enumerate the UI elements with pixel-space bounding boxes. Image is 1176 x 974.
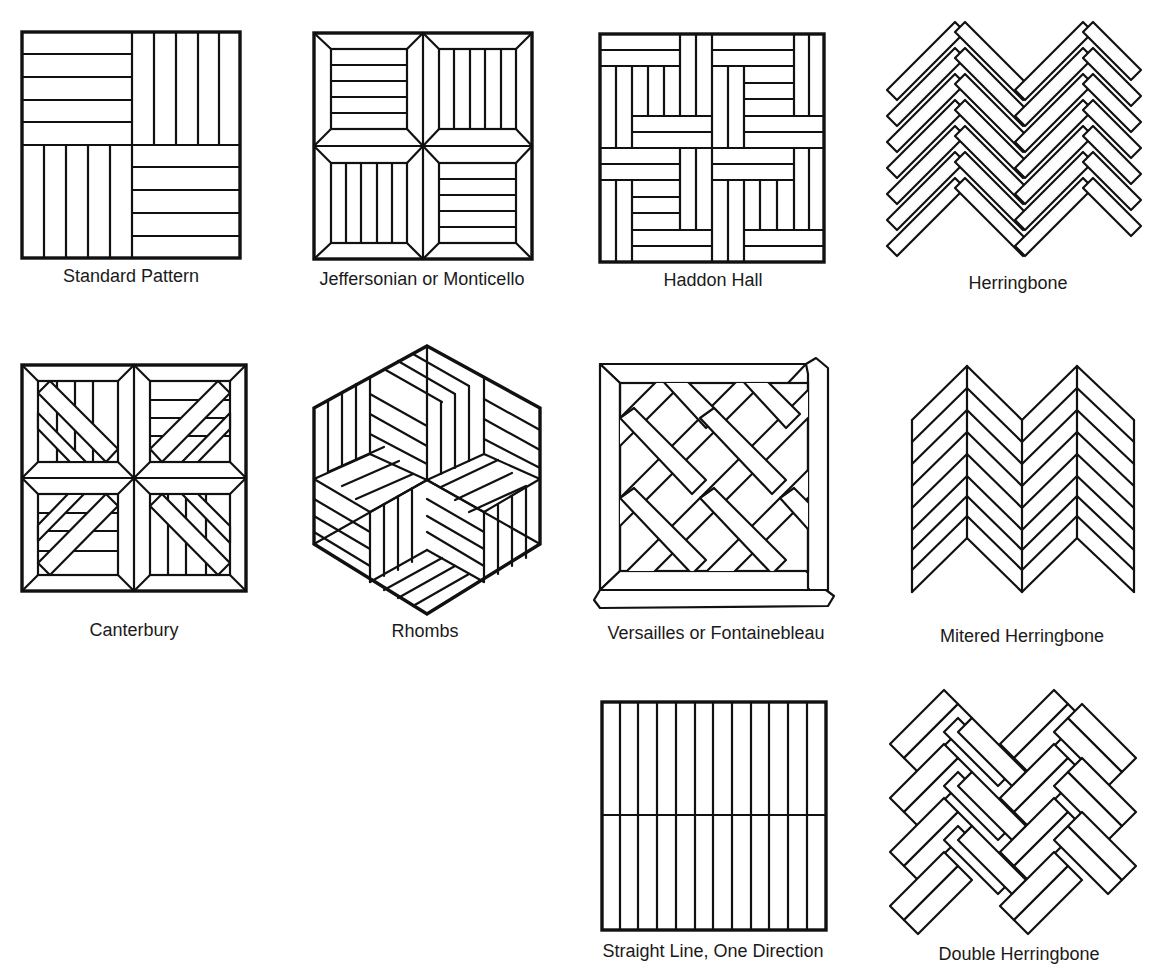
standard-pattern-icon (20, 30, 242, 260)
canterbury-pattern-diagram (20, 363, 248, 593)
straight-line-pattern-diagram (600, 700, 828, 932)
caption-versailles: Versailles or Fontainebleau (607, 623, 824, 644)
versailles-pattern-diagram (590, 358, 840, 608)
mitered-herringbone-pattern-diagram (910, 364, 1140, 596)
rhombs-pattern-icon (312, 344, 542, 616)
haddon-hall-pattern-diagram (598, 32, 826, 264)
jeffersonian-pattern-icon (312, 31, 534, 261)
canterbury-pattern-icon (20, 363, 248, 593)
caption-straight-line: Straight Line, One Direction (602, 941, 823, 962)
herringbone-pattern-icon (885, 18, 1145, 268)
standard-pattern-diagram (20, 30, 242, 260)
double-herringbone-pattern-icon (888, 688, 1140, 936)
versailles-pattern-icon (590, 358, 840, 608)
jeffersonian-pattern-diagram (312, 31, 534, 261)
straight-line-pattern-icon (600, 700, 828, 932)
rhombs-pattern-diagram (312, 344, 542, 616)
haddon-hall-pattern-icon (598, 32, 826, 264)
herringbone-pattern-diagram (885, 18, 1145, 268)
caption-standard-pattern: Standard Pattern (63, 266, 199, 287)
double-herringbone-pattern-diagram (888, 688, 1140, 936)
caption-rhombs: Rhombs (391, 621, 458, 642)
caption-double-herringbone: Double Herringbone (938, 944, 1099, 965)
mitered-herringbone-pattern-icon (910, 364, 1140, 596)
caption-mitered-herringbone: Mitered Herringbone (940, 626, 1104, 647)
caption-canterbury: Canterbury (89, 620, 178, 641)
caption-haddon-hall: Haddon Hall (663, 270, 762, 291)
caption-herringbone: Herringbone (968, 273, 1067, 294)
caption-jeffersonian: Jeffersonian or Monticello (320, 269, 525, 290)
